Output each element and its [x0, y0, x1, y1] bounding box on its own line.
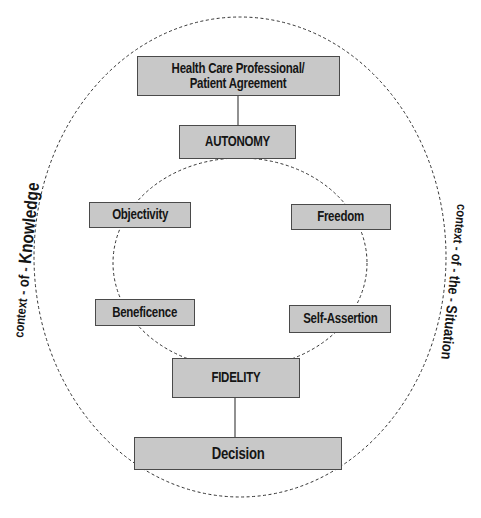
beneficence-box: Beneficence	[95, 299, 195, 326]
inner-principles-circle	[113, 158, 367, 368]
agreement-line1: Health Care Professional/	[172, 61, 305, 76]
autonomy-box: AUTONOMY	[179, 125, 296, 159]
objectivity-box: Objectivity	[89, 202, 191, 228]
agreement-box: Health Care Professional/ Patient Agreem…	[137, 56, 340, 96]
self-assertion-box: Self-Assertion	[289, 305, 391, 333]
dash-separator: -	[444, 297, 460, 303]
freedom-box: Freedom	[291, 204, 391, 230]
fidelity-box: FIDELITY	[172, 358, 300, 398]
dash-separator: -	[450, 246, 466, 252]
dash-separator: -	[447, 268, 463, 274]
decision-box: Decision	[134, 437, 342, 470]
agreement-line2: Patient Agreement	[190, 76, 287, 91]
dash-separator: -	[13, 290, 30, 296]
ethical-decision-diagram: Health Care Professional/ Patient Agreem…	[0, 0, 481, 518]
dash-separator: -	[16, 266, 33, 272]
